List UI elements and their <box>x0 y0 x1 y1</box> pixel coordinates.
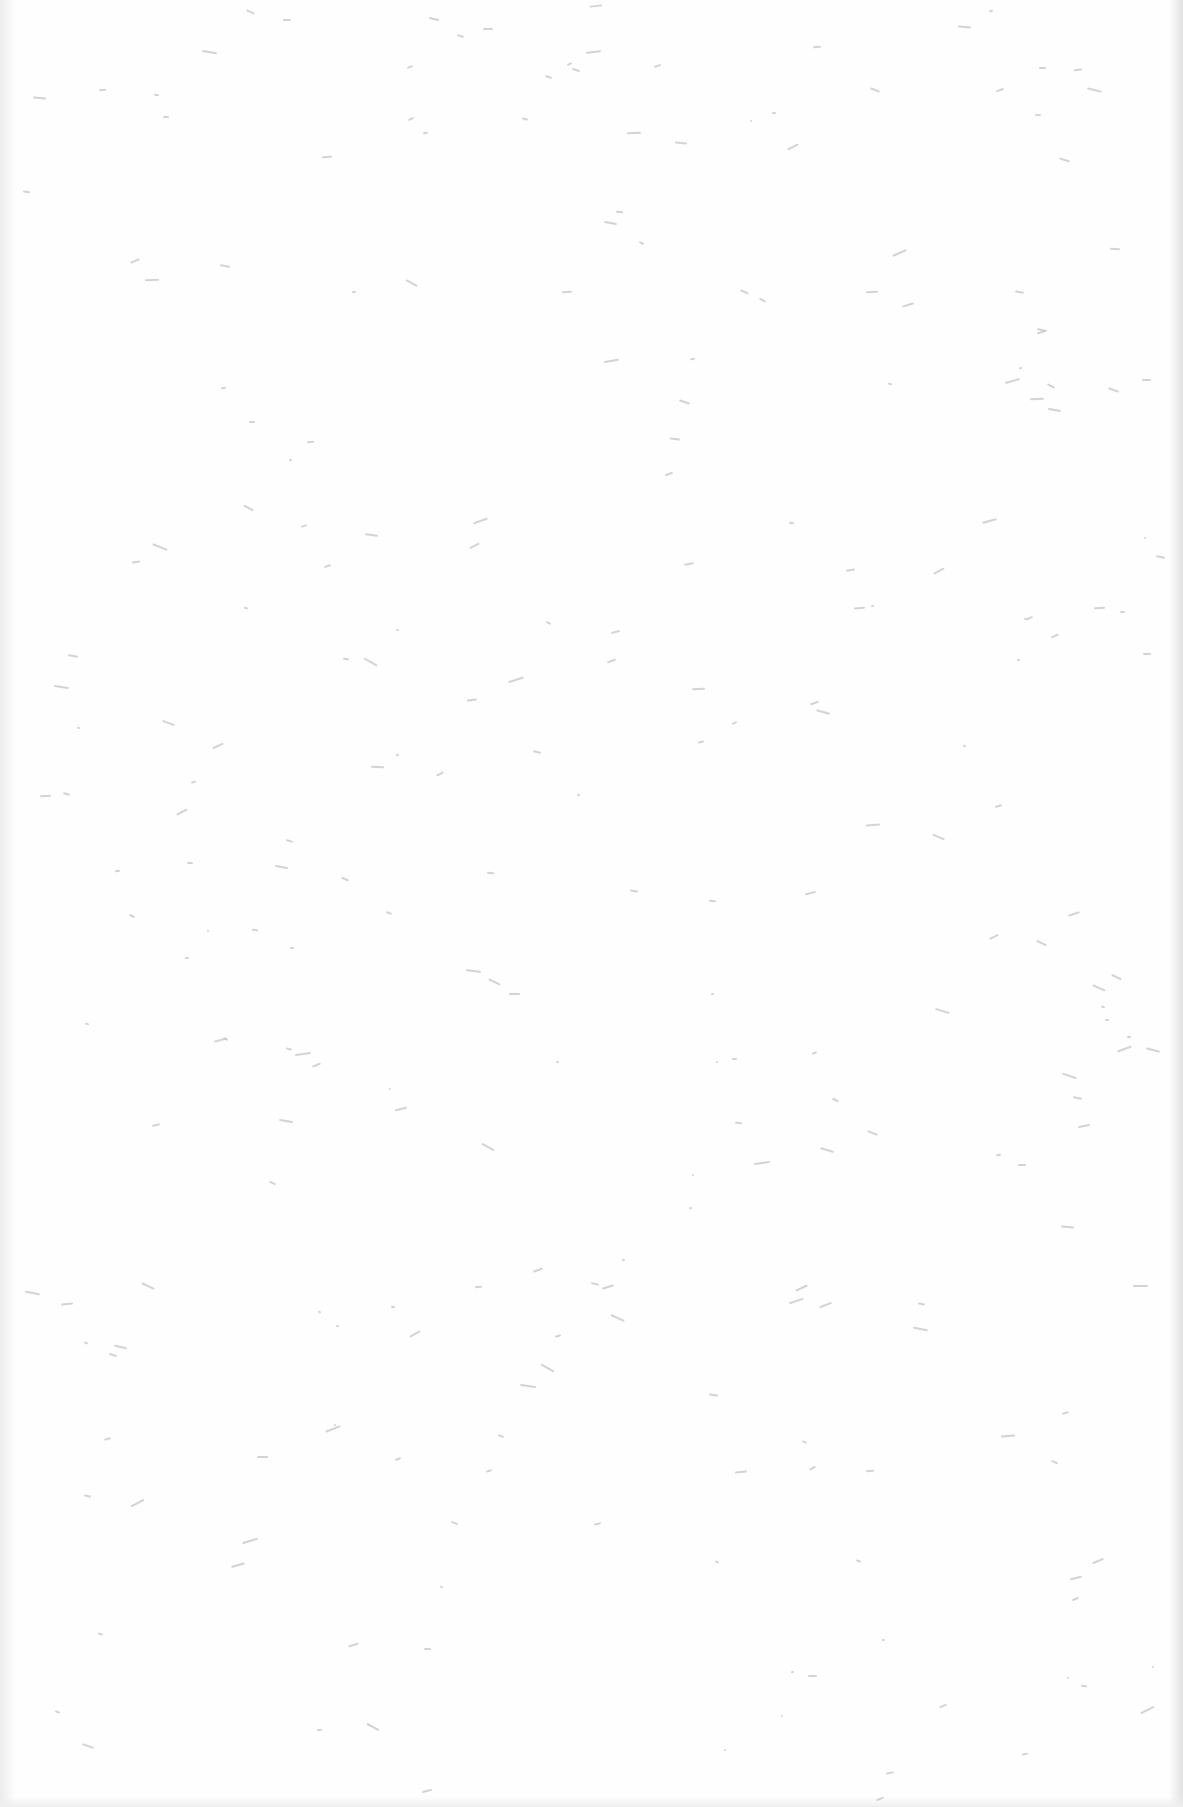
speck <box>933 567 945 575</box>
speck <box>820 1148 834 1154</box>
speck <box>735 1121 742 1124</box>
speck <box>604 221 617 225</box>
speck <box>692 1174 694 1176</box>
speck <box>54 685 70 689</box>
speck <box>207 930 209 932</box>
speck <box>867 1130 878 1136</box>
speck <box>279 1119 293 1123</box>
speck <box>1051 1460 1058 1464</box>
speck <box>590 1282 599 1286</box>
speck <box>932 834 945 841</box>
speck <box>130 258 140 264</box>
speck <box>809 1466 816 1471</box>
speck <box>366 1723 379 1731</box>
speck <box>83 1341 88 1345</box>
speck <box>590 4 602 7</box>
speck <box>269 1181 276 1186</box>
speck <box>249 421 255 423</box>
speck <box>409 1330 421 1338</box>
speck <box>97 1633 102 1636</box>
speck <box>489 979 502 986</box>
speck <box>104 1437 111 1441</box>
speck <box>352 291 356 294</box>
speck <box>679 399 690 404</box>
speck <box>541 1364 555 1373</box>
speck <box>436 771 444 776</box>
speck <box>25 1291 40 1296</box>
speck <box>185 957 189 959</box>
speck <box>772 112 776 114</box>
speck <box>546 621 551 625</box>
speck <box>82 1743 94 1749</box>
speck <box>85 1022 90 1025</box>
speck <box>1087 87 1102 92</box>
speck <box>231 1562 245 1568</box>
speck <box>711 993 715 996</box>
speck <box>1111 974 1121 981</box>
speck <box>723 1748 726 1751</box>
speck <box>562 290 572 293</box>
speck <box>154 93 160 96</box>
speck <box>498 1434 504 1438</box>
speck <box>1110 247 1120 250</box>
speck <box>152 1123 160 1127</box>
speck <box>1127 1036 1131 1038</box>
speck <box>853 606 865 609</box>
speck <box>475 1285 482 1288</box>
speck <box>607 659 616 664</box>
speck <box>1078 1124 1090 1129</box>
speck <box>1030 398 1044 400</box>
speck <box>754 1161 770 1165</box>
speck <box>832 1098 839 1103</box>
speck <box>1073 1096 1082 1100</box>
speck <box>846 569 856 573</box>
speck <box>1061 1225 1074 1228</box>
speck <box>145 279 159 282</box>
speck <box>1015 290 1024 293</box>
speck <box>141 1282 154 1290</box>
speck <box>805 891 816 896</box>
speck <box>545 75 553 79</box>
speck <box>996 87 1004 92</box>
speck <box>1001 1434 1016 1437</box>
speck <box>60 1302 72 1305</box>
speck <box>389 1088 391 1090</box>
speck <box>577 793 581 796</box>
speck <box>604 359 619 364</box>
speck <box>257 1456 268 1458</box>
speck <box>958 25 971 28</box>
speck <box>312 1063 321 1068</box>
speck <box>749 120 752 122</box>
speck <box>692 688 705 691</box>
speck <box>1059 158 1070 163</box>
speck <box>487 872 494 875</box>
speck <box>509 993 520 995</box>
speck <box>212 742 223 749</box>
speck <box>286 839 293 843</box>
speck <box>1080 1684 1086 1687</box>
speck <box>802 1440 807 1444</box>
speck <box>1039 67 1046 69</box>
speck <box>1005 378 1020 384</box>
speck <box>391 1306 395 1308</box>
speck <box>996 1153 1001 1156</box>
speck <box>670 437 680 440</box>
speck <box>532 749 540 753</box>
speck <box>324 564 332 568</box>
speck <box>1143 653 1151 655</box>
speck <box>816 709 830 715</box>
speck <box>395 1107 407 1112</box>
speck <box>963 745 966 748</box>
speck <box>586 50 602 54</box>
speck <box>866 291 878 293</box>
page-right-edge-shadow <box>1169 0 1183 1807</box>
speck <box>1152 1665 1155 1668</box>
speck <box>162 720 175 726</box>
speck <box>989 934 998 940</box>
speck <box>789 1297 803 1303</box>
speck <box>520 1384 536 1388</box>
speck <box>1062 1411 1069 1415</box>
speck <box>33 96 46 99</box>
speck <box>791 1671 794 1673</box>
speck <box>1074 68 1082 71</box>
